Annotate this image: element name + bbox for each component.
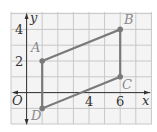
x-tick-4: 4	[85, 94, 93, 109]
y-tick-2: 2	[15, 54, 23, 69]
coordinate-plane: A B C D y x O 4 6 2 4	[0, 0, 157, 132]
label-a: A	[30, 40, 40, 55]
x-axis-label: x	[142, 93, 150, 108]
point-a	[39, 58, 45, 64]
x-tick-6: 6	[116, 94, 124, 109]
origin-label: O	[12, 93, 23, 108]
y-tick-4: 4	[15, 22, 23, 37]
y-axis-label: y	[29, 10, 38, 25]
label-d: D	[30, 108, 42, 123]
label-b: B	[123, 12, 134, 27]
point-b	[117, 27, 123, 33]
label-c: C	[122, 77, 132, 92]
